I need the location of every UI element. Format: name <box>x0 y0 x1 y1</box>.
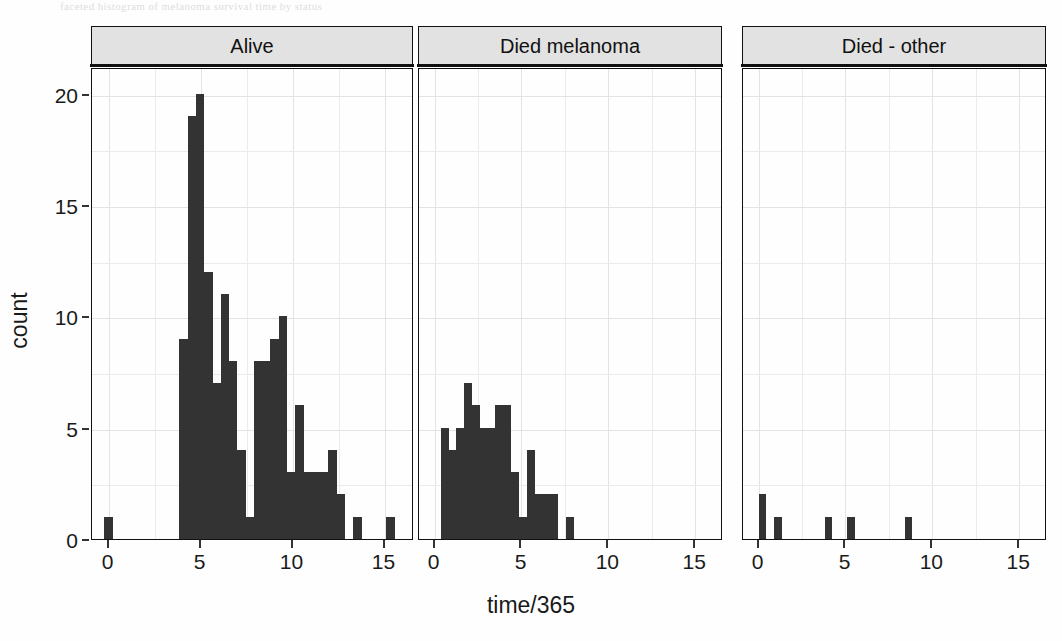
histogram-bar <box>312 472 320 539</box>
histogram-bar <box>495 405 503 539</box>
histogram-bar <box>295 405 303 539</box>
x-axis-tick-mark <box>199 540 201 548</box>
histogram-bar <box>480 428 488 539</box>
histogram-bar <box>270 339 278 539</box>
grid-line-horizontal <box>419 96 721 97</box>
x-axis-tick-label: 5 <box>839 551 851 572</box>
histogram-bar <box>464 383 472 539</box>
grid-line-horizontal-minor <box>419 374 721 375</box>
x-axis-tick-mark <box>930 540 932 548</box>
grid-line-vertical-minor <box>155 69 156 539</box>
histogram-bar <box>179 339 187 539</box>
x-axis-tick-label: 10 <box>280 551 303 572</box>
x-axis-tick-mark <box>693 540 695 548</box>
histogram-bar <box>353 517 361 539</box>
panel-1 <box>91 68 413 540</box>
grid-line-horizontal-minor <box>743 485 1045 486</box>
histogram-bar <box>337 494 345 539</box>
grid-line-horizontal <box>743 430 1045 431</box>
histogram-bar <box>503 405 511 539</box>
grid-line-vertical <box>435 69 436 539</box>
histogram-bar <box>213 383 221 539</box>
histogram-bar <box>279 316 287 539</box>
grid-line-vertical <box>759 69 760 539</box>
x-axis-tick-label: 0 <box>428 551 440 572</box>
grid-line-vertical-minor <box>889 69 890 539</box>
histogram-bar <box>774 517 782 539</box>
grid-line-vertical <box>608 69 609 539</box>
grid-line-vertical-minor <box>802 69 803 539</box>
x-axis-tick-label: 15 <box>683 551 706 572</box>
y-axis-tick-label: 5 <box>66 418 78 439</box>
histogram-bar <box>320 472 328 539</box>
grid-line-vertical <box>845 69 846 539</box>
x-axis-tick-mark <box>843 540 845 548</box>
x-axis-tick-mark <box>519 540 521 548</box>
histogram-bar <box>472 405 480 539</box>
grid-line-vertical <box>932 69 933 539</box>
grid-line-horizontal <box>419 207 721 208</box>
histogram-bar <box>847 517 855 539</box>
histogram-bar <box>229 361 237 539</box>
x-axis-tick-mark <box>291 540 293 548</box>
histogram-bar <box>328 450 336 539</box>
histogram-bar <box>456 428 464 539</box>
grid-line-horizontal-minor <box>743 151 1045 152</box>
y-axis-tick-label: 20 <box>55 84 78 105</box>
histogram-bar <box>237 450 245 539</box>
x-axis-tick-mark <box>383 540 385 548</box>
x-axis-tick-mark <box>606 540 608 548</box>
histogram-bar <box>262 361 270 539</box>
histogram-bar <box>759 494 767 539</box>
grid-line-horizontal-minor <box>419 263 721 264</box>
grid-line-vertical <box>293 69 294 539</box>
y-axis-ticks: 05101520 <box>0 0 78 641</box>
grid-line-vertical-minor <box>976 69 977 539</box>
histogram-bar <box>287 472 295 539</box>
x-axis-tick-mark <box>107 540 109 548</box>
histogram-bar <box>104 517 112 539</box>
x-axis-tick-mark <box>1017 540 1019 548</box>
histogram-bar <box>511 472 519 539</box>
x-axis-tick-label: 10 <box>920 551 943 572</box>
panel-strip-1: Alive <box>91 26 413 66</box>
histogram-bar <box>304 472 312 539</box>
grid-line-vertical-minor <box>247 69 248 539</box>
grid-line-horizontal <box>92 430 412 431</box>
histogram-bar <box>204 272 212 539</box>
grid-line-horizontal <box>92 318 412 319</box>
chart-figure: faceted histogram of melanoma survival t… <box>0 0 1062 641</box>
histogram-bar <box>188 116 196 539</box>
panel-strip-2: Died melanoma <box>418 26 722 66</box>
grid-line-vertical <box>109 69 110 539</box>
x-axis-tick-label: 10 <box>596 551 619 572</box>
histogram-bar <box>441 428 449 539</box>
grid-line-horizontal-minor <box>92 263 412 264</box>
x-axis-tick-mark <box>433 540 435 548</box>
histogram-bar <box>542 494 550 539</box>
grid-line-vertical <box>385 69 386 539</box>
histogram-bar <box>566 517 574 539</box>
y-axis-tick-mark <box>82 316 89 318</box>
x-axis-tick-mark <box>757 540 759 548</box>
y-axis-tick-mark <box>82 94 89 96</box>
panel-strip-label: Died melanoma <box>500 35 640 58</box>
grid-line-horizontal <box>92 96 412 97</box>
histogram-bar <box>535 494 543 539</box>
grid-line-vertical-minor <box>565 69 566 539</box>
panel-strip-label: Died - other <box>842 35 947 58</box>
histogram-bar <box>254 361 262 539</box>
x-axis-tick-label: 15 <box>372 551 395 572</box>
x-axis-tick-label: 5 <box>194 551 206 572</box>
histogram-bar <box>550 494 558 539</box>
grid-line-vertical <box>695 69 696 539</box>
grid-line-horizontal <box>743 96 1045 97</box>
x-axis-tick-label: 0 <box>102 551 114 572</box>
grid-line-horizontal-minor <box>743 263 1045 264</box>
panel-strip-label: Alive <box>230 35 273 58</box>
histogram-bar <box>488 428 496 539</box>
grid-line-horizontal-minor <box>419 151 721 152</box>
grid-line-horizontal-minor <box>92 485 412 486</box>
grid-line-horizontal <box>743 318 1045 319</box>
panel-strip-3: Died - other <box>742 26 1046 66</box>
